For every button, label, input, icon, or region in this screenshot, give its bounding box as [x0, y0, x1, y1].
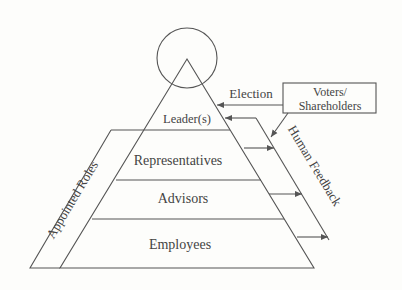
governance-pyramid-diagram: Leader(s) Representatives Advisors Emplo…: [0, 0, 402, 290]
appointed-roles-label: Appointed Roles: [43, 158, 101, 241]
human-feedback-label: Human Feedback: [285, 123, 345, 209]
layer-representatives: Representatives: [134, 153, 223, 168]
voters-to-feedback-arrow: [271, 113, 288, 137]
election-label: Election: [229, 86, 273, 101]
layer-leaders: Leader(s): [163, 112, 211, 126]
layer-advisors: Advisors: [158, 191, 209, 206]
shareholders-label: Shareholders: [299, 99, 362, 113]
layer-employees: Employees: [149, 237, 211, 252]
voters-label: Voters/: [313, 85, 347, 99]
